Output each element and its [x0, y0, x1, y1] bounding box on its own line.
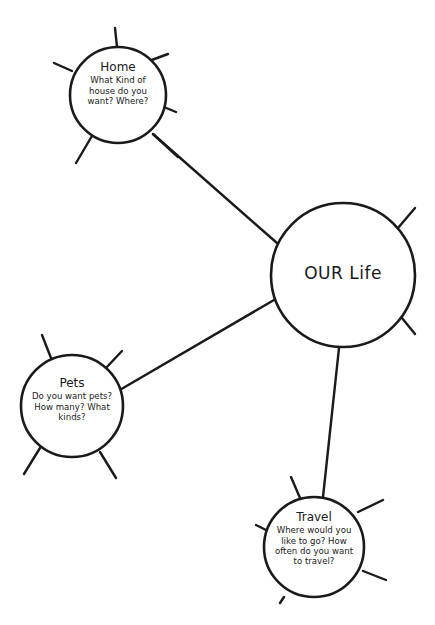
spike-our-life: [398, 208, 415, 228]
spike-travel: [358, 500, 383, 512]
node-home-body: What Kind of house do you want? Where?: [78, 75, 158, 106]
spike-travel: [363, 571, 386, 580]
node-pets-body: Do you want pets? How many? What kinds?: [26, 391, 118, 422]
spike-travel: [280, 597, 284, 603]
spike-home: [54, 63, 72, 71]
spike-pets: [100, 452, 116, 478]
spike-pets: [105, 351, 122, 369]
spike-pets: [24, 448, 40, 474]
node-travel: Travel Where would you like to go? How o…: [270, 510, 358, 567]
node-pets: Pets Do you want pets? How many? What ki…: [26, 376, 118, 422]
node-home-title: Home: [78, 60, 158, 74]
spike-pets: [42, 335, 51, 358]
center-node-our-life: OUR Life: [271, 263, 415, 283]
spike-home: [153, 134, 178, 157]
node-travel-body: Where would you like to go? How often do…: [270, 525, 358, 566]
spike-travel: [291, 477, 300, 498]
node-travel-title: Travel: [270, 510, 358, 524]
connector-pets-our-life: [118, 300, 274, 391]
node-home: Home What Kind of house do you want? Whe…: [78, 60, 158, 106]
spike-our-life: [402, 318, 415, 334]
mind-map-canvas: [0, 0, 435, 625]
spike-home: [115, 28, 117, 47]
node-pets-title: Pets: [26, 376, 118, 390]
center-node-title: OUR Life: [271, 263, 415, 283]
spike-home: [76, 136, 92, 163]
connector-our-life-travel: [323, 348, 339, 497]
